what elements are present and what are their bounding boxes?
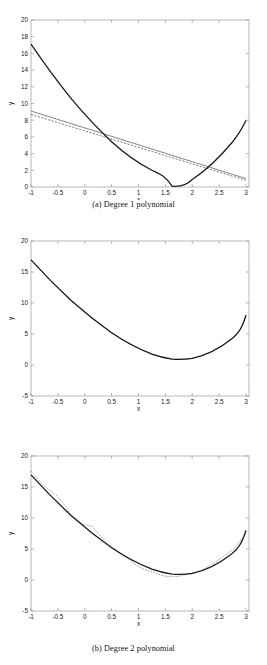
x-ticklabel: -1 (28, 189, 34, 196)
y-ticklabel: 10 (21, 299, 29, 306)
plot-b-y-ticklabels: -5 0 5 10 15 20 (21, 237, 29, 399)
plot-c-x-ticklabels: -1 -0.5 0 0.5 1 1.5 2 2.5 3 (28, 613, 248, 620)
x-ticklabel: 1.5 (161, 398, 170, 405)
y-ticklabel: 20 (21, 237, 29, 244)
y-ticklabel: 20 (21, 452, 29, 459)
plot-a-frame (31, 20, 249, 187)
y-ticklabel: 15 (21, 268, 29, 275)
x-ticklabel: 2 (190, 613, 194, 620)
x-ticklabel: -1 (28, 398, 34, 405)
y-ticklabel: 16 (21, 50, 29, 57)
y-ticklabel: 10 (21, 100, 29, 107)
x-ticklabel: 0.5 (107, 398, 116, 405)
x-ticklabel: 2.5 (215, 613, 224, 620)
y-ticklabel: 14 (21, 66, 29, 73)
x-ticklabel: 0 (83, 398, 87, 405)
y-ticklabel: 15 (21, 483, 29, 490)
plot-b-x-ticklabels: -1 -0.5 0 0.5 1 1.5 2 2.5 3 (28, 398, 248, 405)
plot-c-svg: -5 0 5 10 15 20 (0, 440, 267, 645)
plot-a: 0 2 4 6 8 10 12 14 16 18 20 (0, 0, 267, 200)
x-ticklabel: 0 (83, 613, 87, 620)
x-ticklabel: -0.5 (52, 189, 63, 196)
y-ticklabel: 6 (24, 133, 28, 140)
plot-c-ylabel: y (7, 531, 15, 535)
plot-b-ylabel: y (7, 316, 15, 320)
plot-a-ylabel: y (7, 101, 15, 105)
y-ticklabel: 5 (24, 545, 28, 552)
figure-page: 0 2 4 6 8 10 12 14 16 18 20 (0, 0, 267, 665)
y-ticklabel: 8 (24, 117, 28, 124)
x-ticklabel: -1 (28, 613, 34, 620)
y-ticklabel: 0 (24, 361, 28, 368)
x-ticklabel: 3 (244, 613, 248, 620)
x-ticklabel: 2.5 (215, 398, 224, 405)
plot-b-svg: -5 0 5 10 15 20 (0, 225, 267, 425)
x-ticklabel: -0.5 (52, 398, 63, 405)
x-ticklabel: 1.5 (161, 613, 170, 620)
x-ticklabel: 3 (244, 189, 248, 196)
panel-b: -5 0 5 10 15 20 (0, 225, 267, 440)
x-ticklabel: 0.5 (107, 189, 116, 196)
plot-a-y-ticklabels: 0 2 4 6 8 10 12 14 16 18 20 (21, 16, 29, 190)
plot-c-y-ticklabels: -5 0 5 10 15 20 (21, 452, 29, 614)
plot-c-frame (31, 456, 249, 611)
y-ticklabel: 0 (24, 576, 28, 583)
plot-b-xlabel: x (137, 405, 141, 412)
x-ticklabel: -0.5 (52, 613, 63, 620)
x-ticklabel: 2 (190, 189, 194, 196)
plot-a-svg: 0 2 4 6 8 10 12 14 16 18 20 (0, 0, 267, 200)
y-ticklabel: 10 (21, 514, 29, 521)
y-ticklabel: 20 (21, 16, 29, 23)
x-ticklabel: 3 (244, 398, 248, 405)
y-ticklabel: 4 (24, 150, 28, 157)
plot-b-frame (31, 241, 249, 396)
x-ticklabel: 1.5 (161, 189, 170, 196)
panel-c: -5 0 5 10 15 20 (0, 440, 267, 665)
caption-a: (a) Degree 1 polynomial (0, 200, 267, 209)
x-ticklabel: 1 (137, 398, 141, 405)
panel-a: 0 2 4 6 8 10 12 14 16 18 20 (0, 0, 267, 225)
plot-c: -5 0 5 10 15 20 (0, 440, 267, 645)
plot-b: -5 0 5 10 15 20 (0, 225, 267, 425)
y-ticklabel: 12 (21, 83, 29, 90)
y-ticklabel: 5 (24, 330, 28, 337)
x-ticklabel: 0.5 (107, 613, 116, 620)
plot-c-xlabel: x (137, 620, 141, 627)
x-ticklabel: 0 (83, 189, 87, 196)
y-ticklabel: 18 (21, 33, 29, 40)
x-ticklabel: 2.5 (215, 189, 224, 196)
x-ticklabel: 2 (190, 398, 194, 405)
y-ticklabel: 2 (24, 167, 28, 174)
x-ticklabel: 1 (137, 613, 141, 620)
